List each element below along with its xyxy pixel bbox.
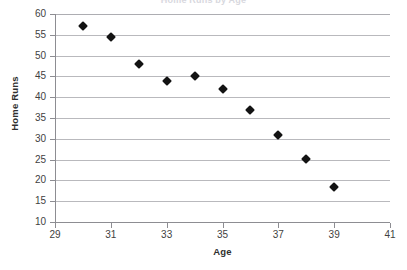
gridline-y-50 xyxy=(55,56,390,57)
gridline-y-45 xyxy=(55,76,390,77)
x-axis-tick-39 xyxy=(334,223,335,228)
y-axis-tick-label: 10 xyxy=(20,217,46,227)
y-axis-tick-label: 30 xyxy=(20,134,46,144)
y-axis-tick-50 xyxy=(50,56,55,57)
data-point xyxy=(218,84,228,94)
gridline-y-60 xyxy=(55,14,390,15)
y-axis-tick-label: 60 xyxy=(20,9,46,19)
data-point xyxy=(329,182,339,192)
y-axis-tick-label: 45 xyxy=(20,71,46,81)
gridline-y-15 xyxy=(55,201,390,202)
y-axis-tick-40 xyxy=(50,97,55,98)
x-axis-tick-41 xyxy=(390,223,391,228)
x-axis-tick-35 xyxy=(223,223,224,228)
x-axis-tick-37 xyxy=(278,223,279,228)
y-axis-tick-15 xyxy=(50,201,55,202)
y-axis-tick-label: 20 xyxy=(20,175,46,185)
x-axis-tick-label: 35 xyxy=(208,230,238,240)
y-axis-tick-60 xyxy=(50,14,55,15)
y-axis-tick-label: 55 xyxy=(20,30,46,40)
gridline-y-55 xyxy=(55,35,390,36)
y-axis-title: Home Runs xyxy=(9,44,20,164)
data-point xyxy=(78,22,88,32)
y-axis-tick-45 xyxy=(50,76,55,77)
y-axis-tick-label: 40 xyxy=(20,92,46,102)
data-point xyxy=(245,105,255,115)
gridline-y-40 xyxy=(55,97,390,98)
chart-title-remnant: Home Runs by Age xyxy=(0,0,407,5)
data-point xyxy=(106,32,116,42)
x-axis-tick-label: 33 xyxy=(152,230,182,240)
x-axis-tick-label: 29 xyxy=(40,230,70,240)
y-axis-tick-label: 50 xyxy=(20,51,46,61)
scatter-chart: Home Runs by Age Home Runs Age 101520253… xyxy=(0,0,407,270)
plot-area xyxy=(55,14,390,222)
x-axis-tick-label: 41 xyxy=(375,230,405,240)
y-axis-tick-label: 25 xyxy=(20,155,46,165)
x-axis-tick-33 xyxy=(167,223,168,228)
x-axis-tick-31 xyxy=(111,223,112,228)
x-axis-tick-29 xyxy=(55,223,56,228)
x-axis-tick-label: 37 xyxy=(263,230,293,240)
x-axis-tick-label: 39 xyxy=(319,230,349,240)
x-axis-tick-label: 31 xyxy=(96,230,126,240)
chart-title-text: Home Runs by Age xyxy=(161,0,246,5)
y-axis-tick-20 xyxy=(50,180,55,181)
y-axis-tick-25 xyxy=(50,160,55,161)
data-point xyxy=(301,154,311,164)
y-axis-line xyxy=(55,14,56,223)
gridline-y-35 xyxy=(55,118,390,119)
data-point xyxy=(134,59,144,69)
gridline-y-25 xyxy=(55,160,390,161)
y-axis-tick-label: 35 xyxy=(20,113,46,123)
data-point xyxy=(190,71,200,81)
y-axis-tick-30 xyxy=(50,139,55,140)
y-axis-tick-35 xyxy=(50,118,55,119)
gridline-y-20 xyxy=(55,180,390,181)
y-axis-tick-label: 15 xyxy=(20,196,46,206)
gridline-y-30 xyxy=(55,139,390,140)
y-axis-tick-55 xyxy=(50,35,55,36)
x-axis-title: Age xyxy=(55,246,390,257)
